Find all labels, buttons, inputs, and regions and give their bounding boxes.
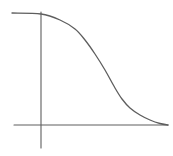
sigmoid-curve <box>12 13 168 125</box>
chart-canvas <box>0 0 173 156</box>
sigmoid-sketch <box>0 0 173 156</box>
